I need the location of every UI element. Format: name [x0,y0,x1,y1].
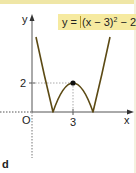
origin-label: O [22,115,31,126]
curve [36,37,110,112]
formula-prefix: y = [62,16,80,28]
formula-inner-tail: − 2 [117,16,136,28]
x-tick-label: 3 [70,117,76,128]
y-axis-arrow-icon [30,14,35,21]
formula-inner-base: (x − 3) [82,16,113,28]
maximum-point [70,80,75,85]
formula-label: y = (x − 3)2 − 2 [58,14,136,30]
x-axis-label: x [124,115,130,126]
y-tick-label: 2 [20,78,26,89]
y-axis-label: y [22,14,28,25]
formula-abs: (x − 3)2 − 2 [80,16,136,28]
panel-label: d [2,158,9,170]
